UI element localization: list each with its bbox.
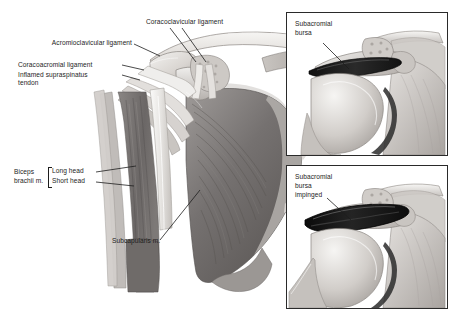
inset-bottom-label-line1: Subacromial <box>295 173 332 181</box>
label-subcapularis-muscle: Subcapularis m. <box>112 237 160 245</box>
label-biceps-line2: brachii m. <box>14 177 43 185</box>
inset-bottom-label-line3: impinged <box>295 191 322 199</box>
anatomy-figure: Coracoclavicular ligament Acromioclavicu… <box>0 0 455 321</box>
label-inflamed-supraspinatus-tendon-line1: Inflamed supraspinatus <box>18 71 88 79</box>
label-short-head: Short head <box>52 177 85 185</box>
anterior-muscle-slips <box>94 90 126 288</box>
inset-panel-impinged-bursa: Subacromial bursa impinged <box>286 165 448 309</box>
inset-bottom-label-line2: bursa <box>295 182 312 190</box>
label-coracoclavicular-ligament: Coracoclavicular ligament <box>146 18 223 26</box>
inset-top-label-line1: Subacromial <box>295 20 332 28</box>
inset-panel-normal-bursa: Subacromial bursa <box>286 12 448 156</box>
label-acromioclavicular-ligament: Acromioclavicular ligament <box>24 39 132 47</box>
label-long-head: Long head <box>52 167 84 175</box>
label-inflamed-supraspinatus-tendon-line2: tendon <box>18 79 39 87</box>
label-coracoacromial-ligament: Coracoacromial ligament <box>18 61 92 69</box>
distal-muscle-wedge <box>126 239 160 292</box>
inset-top-label-line2: bursa <box>295 29 312 37</box>
label-biceps-line1: Biceps <box>14 168 34 176</box>
